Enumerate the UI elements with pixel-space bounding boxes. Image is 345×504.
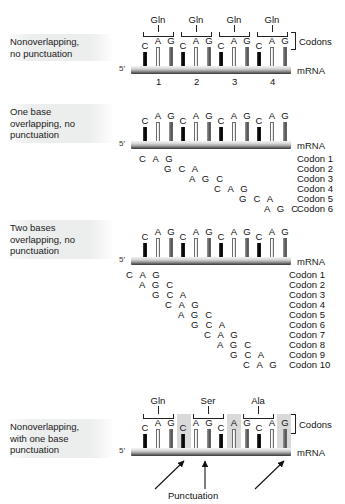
section-label-line: One base <box>10 106 113 118</box>
base-letter: G <box>241 418 253 428</box>
amino-acid-stem <box>158 406 159 414</box>
base-letter: G <box>279 418 291 428</box>
section-nonoverlapping-no-punctuation: Nonoverlapping, no punctuation Gln Gln G… <box>0 14 345 100</box>
codon-number: 1 <box>156 76 161 87</box>
base-letter: G <box>165 418 177 428</box>
base-letter: G <box>241 111 253 121</box>
punctuation-label: Punctuation <box>168 490 218 501</box>
base-letter: C <box>253 232 265 242</box>
five-prime-label: 5′ <box>119 139 125 148</box>
section-label: Nonoverlapping, no punctuation <box>6 34 114 61</box>
amino-acid-stem <box>272 25 273 32</box>
section-label-line: no punctuation <box>10 48 113 60</box>
base-letter: C <box>253 41 265 51</box>
base-letter: C <box>177 232 189 242</box>
section-label: Two bases overlapping, no punctuation <box>6 220 114 259</box>
amino-acid-label: Gln <box>252 14 292 25</box>
codon-number: 4 <box>270 76 275 87</box>
section-label-line: with one base <box>10 433 113 445</box>
base-letter: C <box>139 41 151 51</box>
base-letter: C <box>215 116 227 126</box>
section-nonoverlapping-with-punctuation: Nonoverlapping, with one base punctuatio… <box>0 392 345 502</box>
base-letter: A <box>228 111 240 121</box>
amino-acid-stem <box>208 406 209 414</box>
base-letter: C <box>139 232 151 242</box>
codons-brace <box>291 32 296 50</box>
section-label-line: Nonoverlapping, <box>10 36 113 48</box>
base-letter: C <box>139 423 151 433</box>
base-letter: A <box>228 418 240 428</box>
base-letter: A <box>190 227 202 237</box>
codons-label: Codons <box>299 36 332 47</box>
five-prime-label: 5′ <box>119 64 125 73</box>
codons-label: Codons <box>299 419 332 430</box>
base-letter: A <box>152 111 164 121</box>
amino-acid-stem <box>196 25 197 32</box>
base-letter: G <box>165 111 177 121</box>
base-letter: A <box>266 36 278 46</box>
section-label: Nonoverlapping, with one base punctuatio… <box>6 419 114 458</box>
mrna-label: mRNA <box>297 140 325 151</box>
base-letter: G <box>279 36 291 46</box>
five-prime-label: 5′ <box>119 255 125 264</box>
amino-acid-label: Gln <box>176 14 216 25</box>
amino-acid-label: Gln <box>214 14 254 25</box>
mrna-label: mRNA <box>297 256 325 267</box>
mrna-backbone <box>131 66 291 74</box>
section-label-line: Nonoverlapping, <box>10 421 113 433</box>
base-letter: G <box>203 111 215 121</box>
base-letter: A <box>190 36 202 46</box>
amino-acid-label: Ser <box>188 395 228 406</box>
codon-name: Codon 6 <box>297 203 333 214</box>
base-letter: C <box>215 41 227 51</box>
base-letter: G <box>203 36 215 46</box>
amino-acid-label: Gln <box>138 14 178 25</box>
punctuation-arrows <box>130 456 310 496</box>
mrna-backbone <box>131 448 291 456</box>
amino-acid-label: Ala <box>238 395 278 406</box>
codon-number: 2 <box>194 76 199 87</box>
section-label-line: punctuation <box>10 129 113 141</box>
codon-number: 3 <box>232 76 237 87</box>
base-letter: A <box>190 111 202 121</box>
base-letter: C <box>215 232 227 242</box>
amino-acid-stem <box>258 406 259 414</box>
section-label-line: punctuation <box>10 444 113 456</box>
codon-name: Codon 10 <box>289 359 330 370</box>
section-label: One base overlapping, no punctuation <box>6 104 114 143</box>
amino-acid-stem <box>158 25 159 32</box>
section-two-bases-overlapping: Two bases overlapping, no punctuation C … <box>0 218 345 378</box>
base-letter: C <box>253 423 265 433</box>
codon-sequence: C A G <box>243 359 279 370</box>
amino-acid-label: Gln <box>138 395 178 406</box>
base-letter: A <box>266 227 278 237</box>
base-letter: A <box>152 36 164 46</box>
base-letter: A <box>190 418 202 428</box>
base-letter: G <box>241 36 253 46</box>
base-letter: A <box>266 418 278 428</box>
amino-acid-stem <box>234 25 235 32</box>
codons-brace <box>291 414 296 434</box>
base-letter: G <box>279 111 291 121</box>
mrna-backbone <box>131 141 291 149</box>
base-letter: A <box>228 36 240 46</box>
base-letter: C <box>177 41 189 51</box>
base-letter: C <box>177 423 189 433</box>
base-letter: A <box>152 418 164 428</box>
base-letter: C <box>139 116 151 126</box>
base-letter: C <box>253 116 265 126</box>
section-one-base-overlapping: One base overlapping, no punctuation C A… <box>0 102 345 214</box>
base-letter: G <box>241 227 253 237</box>
base-letter: A <box>152 227 164 237</box>
section-label-line: punctuation <box>10 245 113 257</box>
base-letter: G <box>165 36 177 46</box>
section-label-line: overlapping, no <box>10 118 113 130</box>
mrna-backbone <box>131 257 291 265</box>
base-letter: G <box>165 227 177 237</box>
base-letter: A <box>228 227 240 237</box>
base-letter: A <box>266 111 278 121</box>
base-letter: G <box>203 418 215 428</box>
five-prime-label: 5′ <box>119 446 125 455</box>
base-letter: C <box>177 116 189 126</box>
base-letter: G <box>279 227 291 237</box>
